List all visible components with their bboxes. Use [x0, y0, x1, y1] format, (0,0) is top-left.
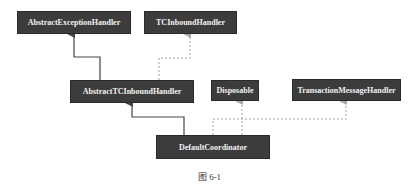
class-box-default-coordinator: DefaultCoordinator	[156, 135, 270, 159]
implements-line-abstracttc-to-tcinbound	[159, 34, 190, 80]
class-label: Disposable	[217, 86, 254, 95]
class-label: TCInboundHandler	[156, 18, 225, 27]
figure-caption: 图 6-1	[0, 170, 419, 183]
extends-line-abstracttc-to-abstractexception	[74, 34, 100, 80]
class-label: TransactionMessageHandler	[297, 86, 395, 95]
class-box-transaction-message-handler: TransactionMessageHandler	[292, 79, 401, 101]
class-box-abstract-tc-inbound-handler: AbstractTCInboundHandler	[70, 80, 194, 103]
class-box-abstract-exception-handler: AbstractExceptionHandler	[17, 11, 131, 34]
class-label: AbstractExceptionHandler	[28, 18, 120, 27]
class-label: DefaultCoordinator	[179, 143, 247, 152]
implements-line-default-to-transaction	[213, 101, 346, 135]
class-label: AbstractTCInboundHandler	[83, 87, 182, 96]
class-box-disposable: Disposable	[211, 80, 259, 101]
extends-line-default-to-abstracttc	[132, 103, 184, 135]
class-box-tc-inbound-handler: TCInboundHandler	[144, 11, 237, 34]
